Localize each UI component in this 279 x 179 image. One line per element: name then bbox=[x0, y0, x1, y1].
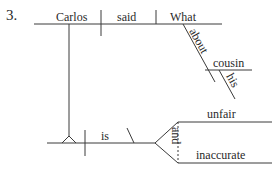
conjunction-word: and bbox=[169, 127, 183, 144]
pedestal-right bbox=[69, 136, 76, 143]
subject-word: Carlos bbox=[56, 10, 88, 24]
verb-word: said bbox=[117, 10, 136, 24]
pedestal-left bbox=[62, 136, 69, 143]
possessive-word: his bbox=[223, 71, 242, 90]
sentence-diagram: 3. Carlos said What about cousin his is … bbox=[0, 0, 279, 179]
clause-verb-word: is bbox=[101, 129, 109, 143]
adjective-word-upper: unfair bbox=[207, 107, 236, 121]
object-word: What bbox=[170, 10, 197, 24]
complement-slant bbox=[127, 128, 134, 143]
prep-object-word: cousin bbox=[213, 56, 244, 70]
adjective-word-lower: inaccurate bbox=[196, 148, 245, 162]
fork-lower bbox=[155, 143, 178, 163]
exercise-number: 3. bbox=[6, 7, 17, 23]
preposition-word: about bbox=[186, 26, 211, 57]
